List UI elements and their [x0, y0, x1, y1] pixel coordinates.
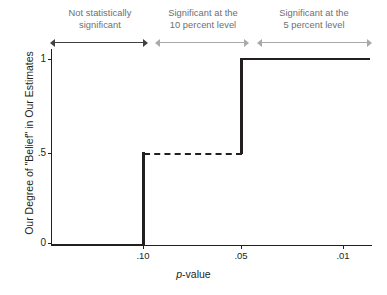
y-tick-mark-0	[48, 243, 52, 244]
annotation-line2: 10 percent level	[148, 20, 258, 32]
arrow-head-right-icon	[143, 39, 148, 47]
x-tick-label-01: .01	[323, 250, 363, 261]
y-tick-mark-05	[48, 153, 52, 154]
arrow-head-right-icon	[244, 39, 249, 47]
annotation-arrow-10-percent	[155, 38, 249, 47]
arrow-head-right-icon	[367, 39, 372, 47]
arrow-shaft	[54, 42, 144, 43]
y-axis-spine	[51, 49, 52, 245]
step-riser-at-10	[142, 152, 145, 246]
annotation-arrow-5-percent	[257, 38, 372, 47]
arrow-shaft	[159, 42, 245, 43]
step-segment-dashed-half	[144, 153, 242, 155]
annotation-arrow-not-significant	[50, 38, 148, 47]
step-segment-baseline-zero	[52, 244, 144, 247]
step-riser-at-05	[240, 58, 243, 154]
annotation-line1: Not statistically	[69, 8, 132, 18]
arrow-shaft	[261, 42, 368, 43]
x-tick-mark-05	[241, 245, 242, 249]
annotation-line2: 5 percent level	[258, 20, 370, 32]
x-axis-label-rest: -value	[182, 268, 211, 280]
x-axis-label: p-value	[0, 268, 387, 280]
y-tick-mark-1	[48, 59, 52, 60]
chart-figure: Not statistically significant Significan…	[0, 0, 387, 295]
annotation-label-5-percent: Significant at the 5 percent level	[258, 8, 370, 31]
annotation-label-not-significant: Not statistically significant	[44, 8, 156, 31]
step-segment-top-one	[240, 58, 370, 61]
annotation-line1: Significant at the	[279, 8, 349, 18]
x-tick-mark-01	[343, 245, 344, 249]
annotation-line1: Significant at the	[168, 8, 238, 18]
annotation-label-10-percent: Significant at the 10 percent level	[148, 8, 258, 31]
x-tick-label-10: .10	[123, 250, 163, 261]
x-tick-label-05: .05	[221, 250, 261, 261]
annotation-line2: significant	[44, 20, 156, 32]
y-axis-label: Our Degree of "Belief" in Our Estimates	[23, 36, 35, 251]
